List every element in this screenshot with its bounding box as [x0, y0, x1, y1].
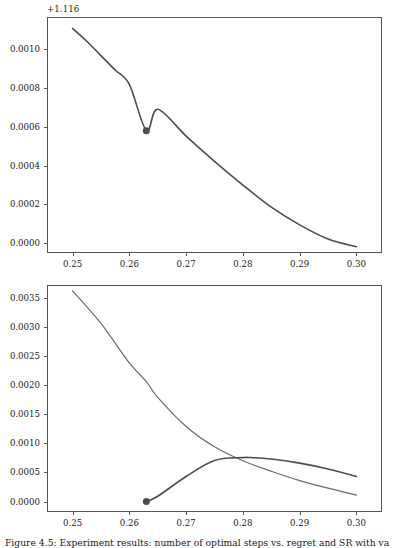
- y-axis-tick-mark: [44, 127, 47, 128]
- x-axis-tick-mark: [300, 253, 301, 256]
- x-axis-tick-mark: [186, 512, 187, 515]
- x-axis-tick-label: 0.30: [347, 518, 366, 528]
- y-axis-tick-mark: [44, 327, 47, 328]
- y-axis-tick-label: 0.0010: [0, 438, 40, 448]
- x-axis-tick-label: 0.29: [290, 518, 309, 528]
- y-axis-tick-label: 0.0025: [0, 351, 40, 361]
- x-axis-tick-mark: [356, 253, 357, 256]
- figure-caption: Figure 4.5: Experiment results: number o…: [5, 538, 389, 548]
- x-axis-tick-mark: [186, 253, 187, 256]
- curve-curve-1: [73, 28, 357, 246]
- y-axis-tick-mark: [44, 502, 47, 503]
- x-axis-tick-label: 0.28: [233, 518, 252, 528]
- y-axis-tick-mark: [44, 166, 47, 167]
- chart-panel-bottom: 0.00000.00050.00100.00150.00200.00250.00…: [0, 280, 394, 547]
- x-axis-tick-label: 0.25: [63, 259, 82, 269]
- y-axis-tick-label: 0.0015: [0, 409, 40, 419]
- chart-panel-top: +1.116 0.00000.00020.00040.00060.00080.0…: [0, 0, 394, 280]
- y-axis-tick-mark: [44, 472, 47, 473]
- y-axis-tick-mark: [44, 385, 47, 386]
- y-axis-tick-label: 0.0010: [0, 44, 40, 54]
- y-axis-tick-mark: [44, 298, 47, 299]
- x-axis-tick-label: 0.29: [290, 259, 309, 269]
- x-axis-tick-mark: [129, 253, 130, 256]
- y-axis-tick-label: 0.0035: [0, 293, 40, 303]
- y-axis-tick-label: 0.0006: [0, 122, 40, 132]
- y-axis-tick-mark: [44, 243, 47, 244]
- plot-curves-bottom: [0, 280, 394, 547]
- x-axis-tick-label: 0.26: [120, 518, 139, 528]
- y-axis-tick-label: 0.0000: [0, 238, 40, 248]
- x-axis-tick-label: 0.28: [233, 259, 252, 269]
- y-axis-tick-label: 0.0002: [0, 199, 40, 209]
- y-axis-tick-label: 0.0030: [0, 322, 40, 332]
- x-axis-tick-label: 0.30: [347, 259, 366, 269]
- curve-decreasing-curve: [73, 291, 357, 495]
- data-marker-highlight-point: [143, 127, 150, 134]
- y-axis-tick-label: 0.0005: [0, 467, 40, 477]
- y-axis-tick-label: 0.0004: [0, 161, 40, 171]
- x-axis-tick-mark: [243, 253, 244, 256]
- y-axis-tick-mark: [44, 443, 47, 444]
- x-axis-tick-mark: [300, 512, 301, 515]
- x-axis-tick-mark: [73, 253, 74, 256]
- x-axis-tick-label: 0.26: [120, 259, 139, 269]
- y-axis-tick-mark: [44, 88, 47, 89]
- y-axis-tick-mark: [44, 356, 47, 357]
- y-axis-tick-label: 0.0008: [0, 83, 40, 93]
- y-axis-tick-label: 0.0000: [0, 497, 40, 507]
- plot-curves-top: [0, 0, 394, 280]
- x-axis-tick-mark: [129, 512, 130, 515]
- y-axis-tick-mark: [44, 204, 47, 205]
- x-axis-tick-label: 0.25: [63, 518, 82, 528]
- y-axis-tick-label: 0.0020: [0, 380, 40, 390]
- x-axis-tick-mark: [356, 512, 357, 515]
- x-axis-tick-mark: [73, 512, 74, 515]
- x-axis-tick-label: 0.27: [177, 259, 196, 269]
- x-axis-tick-label: 0.27: [177, 518, 196, 528]
- x-axis-tick-mark: [243, 512, 244, 515]
- y-axis-tick-mark: [44, 414, 47, 415]
- data-marker-start-point: [143, 498, 150, 505]
- y-axis-tick-mark: [44, 49, 47, 50]
